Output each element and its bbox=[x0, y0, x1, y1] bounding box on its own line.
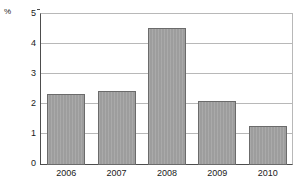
bar-chart: % 5 4 3 2 1 0 2006 2007 2008 2009 2010 bbox=[0, 0, 302, 193]
x-tick-2008: 2008 bbox=[142, 168, 192, 179]
x-tick-2010: 2010 bbox=[243, 168, 293, 179]
x-tick-2006: 2006 bbox=[41, 168, 91, 179]
bars-layer bbox=[41, 13, 293, 165]
bar-slot bbox=[192, 13, 242, 165]
y-tick-5: 5 bbox=[8, 9, 36, 18]
bar-2007 bbox=[98, 91, 136, 166]
x-tick-2007: 2007 bbox=[91, 168, 141, 179]
y-tick-mark bbox=[37, 9, 40, 10]
bar-2006 bbox=[47, 94, 85, 165]
y-tick-2: 2 bbox=[8, 99, 36, 108]
x-axis: 2006 2007 2008 2009 2010 bbox=[41, 168, 293, 179]
x-tick-2009: 2009 bbox=[192, 168, 242, 179]
bar-slot bbox=[91, 13, 141, 165]
bar-2010 bbox=[249, 126, 287, 166]
bar-2009 bbox=[198, 101, 236, 165]
y-axis: 5 4 3 2 1 0 bbox=[5, 13, 36, 165]
y-tick-3: 3 bbox=[8, 69, 36, 78]
y-tick-4: 4 bbox=[8, 39, 36, 48]
bar-slot bbox=[243, 13, 293, 165]
bar-slot bbox=[142, 13, 192, 165]
y-tick-0: 0 bbox=[8, 159, 36, 168]
bar-slot bbox=[41, 13, 91, 165]
y-tick-1: 1 bbox=[8, 129, 36, 138]
bar-2008 bbox=[148, 28, 186, 165]
